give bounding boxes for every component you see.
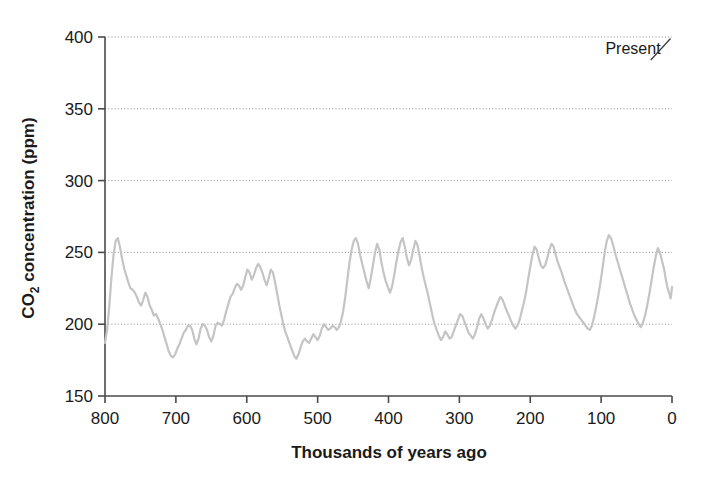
x-tick-label-0: 0: [667, 409, 676, 428]
x-tick-label-500: 500: [303, 409, 331, 428]
x-tick-label-400: 400: [374, 409, 402, 428]
x-tick-labels-group: 8007006005004003002001000: [91, 409, 677, 428]
x-tick-label-600: 600: [233, 409, 261, 428]
y-axis-title-suffix: concentration (ppm): [19, 117, 38, 286]
x-axis-title: Thousands of years ago: [291, 443, 487, 462]
x-tick-label-800: 800: [91, 409, 119, 428]
y-tick-label-400: 400: [65, 28, 93, 47]
co2-line-chart: 150200250300350400 800700600500400300200…: [0, 0, 704, 481]
y-axis-title-prefix: CO: [19, 293, 38, 319]
x-tick-label-200: 200: [516, 409, 544, 428]
annotation-label-present: Present: [605, 40, 661, 57]
y-tick-label-350: 350: [65, 100, 93, 119]
x-tick-label-300: 300: [445, 409, 473, 428]
y-tick-label-150: 150: [65, 387, 93, 406]
y-tick-label-250: 250: [65, 243, 93, 262]
co2-chart-figure: 150200250300350400 800700600500400300200…: [0, 0, 704, 481]
x-tick-label-700: 700: [162, 409, 190, 428]
y-tick-label-300: 300: [65, 172, 93, 191]
y-tick-label-200: 200: [65, 315, 93, 334]
x-tick-label-100: 100: [587, 409, 615, 428]
